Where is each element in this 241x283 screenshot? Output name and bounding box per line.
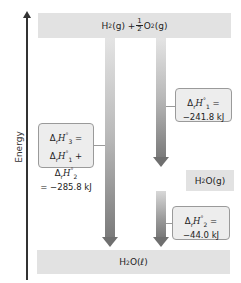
enthalpy-label: ΔrH°1 = <box>176 94 231 112</box>
enthalpy-value: = −285.8 kJ <box>39 182 93 193</box>
enthalpy-box-step2: ΔrH°2 = −44.0 kJ <box>172 206 230 240</box>
enthalpy-value: −241.8 kJ <box>176 112 231 123</box>
axis-line <box>26 16 28 280</box>
arrow-step1-shaft <box>156 38 166 158</box>
arrow-down-icon <box>153 237 169 247</box>
arrow-down-icon <box>102 237 118 247</box>
fraction-one-half: 12 <box>136 18 142 33</box>
level-reactants: H2(g) + 12 O2(g) <box>38 13 231 38</box>
enthalpy-box-step1: ΔrH°1 = −241.8 kJ <box>175 88 232 122</box>
enthalpy-label: ΔrH°3 = <box>39 129 93 147</box>
arrow-down-icon <box>153 157 169 167</box>
denominator: 2 <box>137 26 141 33</box>
enthalpy-symbol: H <box>196 98 203 108</box>
species-o: O <box>144 21 151 31</box>
enthalpy-sum: ΔrH°1 + ΔrH°2 <box>39 147 93 182</box>
enthalpy-symbol: H <box>193 216 200 226</box>
species-rest: O(g) <box>205 176 225 186</box>
enthalpy-value: −44.0 kJ <box>173 230 229 241</box>
connector-line <box>166 106 175 107</box>
enthalpy-label: ΔrH°2 = <box>173 212 229 230</box>
level-water-gas: H2O(g) <box>186 170 234 191</box>
level-water-liquid: H2O(ℓ) <box>37 250 230 274</box>
species-h: H <box>102 21 109 31</box>
species-h: H <box>195 176 202 186</box>
arrow-step3-shaft <box>105 38 115 238</box>
enthalpy-box-step3: ΔrH°3 = ΔrH°1 + ΔrH°2 = −285.8 kJ <box>38 123 94 168</box>
plus: + <box>72 150 82 160</box>
enthalpy-symbol: H <box>58 133 65 143</box>
axis-label: Energy <box>14 122 24 172</box>
equals: = <box>72 133 82 143</box>
state-text: (g) + <box>112 21 135 31</box>
enthalpy-symbol: H <box>58 150 65 160</box>
species-h: H <box>119 257 126 267</box>
equals: = <box>207 216 217 226</box>
species-rest: O(ℓ) <box>130 257 148 267</box>
equals: = <box>210 98 220 108</box>
state-text: (g) <box>155 21 168 31</box>
connector-line <box>94 145 105 146</box>
arrow-step2-shaft <box>156 191 166 238</box>
subscript: 2 <box>73 173 77 180</box>
